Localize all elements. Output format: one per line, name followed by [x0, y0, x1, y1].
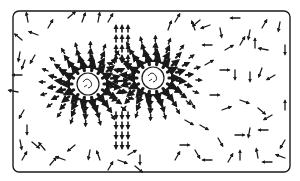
arrow — [141, 38, 142, 43]
arrow — [66, 90, 73, 94]
arrow — [205, 61, 213, 66]
arrow — [48, 104, 52, 107]
arrow — [26, 13, 28, 22]
arrow — [58, 90, 65, 92]
arrow — [166, 47, 169, 53]
arrow — [98, 13, 100, 22]
arrow — [134, 56, 138, 62]
arrow — [186, 74, 192, 75]
arrow — [264, 115, 272, 120]
arrow — [138, 96, 142, 102]
arrow — [277, 155, 286, 158]
arrow — [122, 75, 129, 76]
arrow — [195, 67, 200, 68]
arrow — [168, 39, 170, 44]
arrow — [186, 101, 190, 104]
arrow — [193, 20, 200, 26]
arrow — [97, 111, 99, 117]
arrow-field — [9, 12, 285, 172]
arrow — [118, 160, 127, 163]
arrow — [259, 48, 268, 50]
arrow — [111, 60, 115, 64]
arrow — [162, 105, 164, 111]
arrow — [103, 100, 107, 106]
arrow — [175, 14, 180, 22]
arrow — [262, 20, 267, 28]
arrow — [83, 63, 85, 71]
arrow — [109, 94, 115, 98]
arrow — [39, 143, 45, 150]
arrow — [9, 90, 18, 92]
arrow — [136, 112, 138, 117]
arrow — [149, 98, 150, 105]
arrow — [62, 49, 65, 53]
arrow — [115, 100, 120, 103]
arrow — [50, 76, 56, 77]
arrow — [53, 96, 58, 99]
arrow — [267, 75, 275, 80]
arrow — [176, 71, 183, 73]
arrow — [135, 166, 142, 172]
arrow — [142, 45, 144, 51]
arrow — [180, 94, 185, 97]
arrow — [57, 157, 66, 160]
arrow — [56, 65, 61, 68]
arrow — [114, 81, 120, 82]
arrow — [189, 55, 193, 58]
arrow — [51, 58, 55, 61]
arrow — [193, 91, 198, 93]
arrow — [43, 69, 48, 71]
arrow — [126, 98, 130, 102]
arrow — [248, 128, 250, 137]
arrow — [123, 84, 130, 86]
arrow — [76, 44, 77, 49]
arrow — [18, 52, 20, 61]
arrow — [92, 97, 94, 105]
arrow — [167, 69, 174, 73]
arrow — [73, 95, 78, 101]
arrow — [64, 97, 70, 101]
arrow — [248, 30, 250, 39]
arrow — [20, 110, 25, 118]
left-body — [77, 73, 99, 95]
arrow — [159, 98, 161, 105]
arrow — [99, 119, 100, 124]
arrow — [20, 140, 22, 149]
arrow — [218, 138, 223, 146]
arrow — [278, 22, 280, 31]
arrow — [58, 112, 61, 116]
arrow — [42, 94, 47, 95]
arrow — [48, 20, 53, 28]
arrow — [91, 57, 92, 64]
arrow — [202, 25, 211, 28]
arrow — [222, 107, 231, 110]
arrow — [72, 110, 75, 116]
arrow — [176, 109, 179, 113]
arrow — [164, 113, 165, 118]
arrow — [71, 118, 73, 123]
arrow — [107, 107, 111, 112]
arrow — [103, 45, 105, 50]
arrow — [112, 87, 119, 88]
arrow — [49, 87, 55, 88]
arrow — [121, 80, 127, 81]
arrow — [256, 149, 258, 158]
arrow — [94, 104, 96, 111]
arrow — [31, 55, 36, 63]
arrow — [240, 100, 249, 103]
arrow — [101, 53, 104, 59]
arrow — [61, 71, 67, 75]
arrow — [195, 150, 200, 158]
arrow — [108, 162, 113, 170]
arrow — [73, 102, 77, 108]
arrow — [172, 61, 178, 65]
arrow — [118, 90, 123, 93]
arrow — [68, 12, 75, 18]
arrow — [130, 51, 134, 56]
right-body — [142, 67, 164, 89]
arrow — [172, 101, 176, 106]
arrow — [57, 81, 64, 82]
arrow — [82, 14, 85, 23]
arrow — [168, 22, 171, 31]
arrow — [107, 88, 112, 89]
